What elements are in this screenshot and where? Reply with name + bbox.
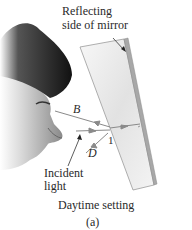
mirror bbox=[80, 38, 157, 190]
figure-caption: Daytime setting bbox=[58, 199, 134, 211]
mirror-callout-line2: side of mirror bbox=[62, 19, 128, 31]
diagram-canvas bbox=[0, 0, 192, 230]
head-profile bbox=[0, 23, 72, 170]
ray-label-d: D bbox=[88, 147, 97, 159]
mirror-callout-line1: Reflecting bbox=[62, 5, 112, 17]
incident-pointer bbox=[68, 137, 80, 166]
incident-label-line1: Incident bbox=[44, 167, 83, 179]
incident-arrowhead bbox=[77, 134, 82, 140]
ray-label-1: 1 bbox=[108, 134, 114, 146]
incident-label-line2: light bbox=[44, 180, 66, 192]
panel-label: (a) bbox=[86, 216, 99, 228]
ray-b bbox=[55, 111, 110, 127]
ray-label-b: B bbox=[73, 103, 80, 115]
